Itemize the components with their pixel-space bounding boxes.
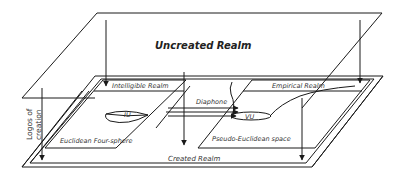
iu-label: IU [124,111,131,119]
diaphone-label: Diaphone [196,98,227,106]
intelligible-realm-label: Intelligible Realm [112,82,169,90]
vu-label: VU [245,113,254,121]
pseudo-euclidean-space-label: Pseudo-Euclidean space [212,135,291,143]
svg-text:creation: creation [34,109,43,140]
svg-text:Logos of: Logos of [25,108,34,140]
euclidean-four-sphere-label: Euclidean Four-sphere [60,137,133,145]
uncreated-realm-label: Uncreated Realm [155,40,251,51]
empirical-realm-label: Empirical Realm [272,82,325,90]
created-realm-label: Created Realm [168,155,220,163]
realms-diagram: Uncreated Realm Intelligible Realm Eucli… [0,0,398,180]
logos-of-creation-label: Logos of creation [25,108,43,140]
